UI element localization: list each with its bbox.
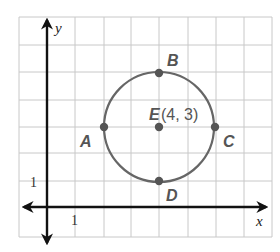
point-e-dot <box>155 123 163 131</box>
point-c-label: C <box>223 133 235 150</box>
point-a-label: A <box>79 133 92 150</box>
point-a-dot <box>100 123 108 131</box>
x-tick-label: 1 <box>71 213 78 228</box>
point-d-label: D <box>166 187 178 204</box>
x-axis-label: x <box>255 213 263 229</box>
point-c-dot <box>211 123 219 131</box>
grid-lines <box>19 17 272 237</box>
y-axis-label: y <box>53 20 62 36</box>
point-b-dot <box>155 69 163 77</box>
coordinate-plane: y x 1 1 A B C D E (4, 3) <box>0 0 280 252</box>
point-b-label: B <box>167 52 179 69</box>
center-coordinates: (4, 3) <box>161 106 198 123</box>
point-d-dot <box>155 177 163 185</box>
y-tick-label: 1 <box>30 175 37 190</box>
point-e-label: E <box>149 106 161 123</box>
